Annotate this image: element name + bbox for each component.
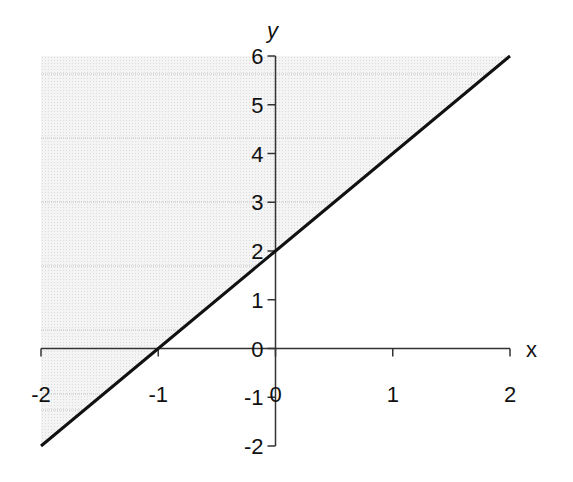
y-tick-label: 3 [251,190,263,215]
y-tick-label: 6 [251,44,263,69]
x-tick-label: 0 [269,382,281,407]
y-tick-label: 2 [251,239,263,264]
y-tick-label: 4 [251,142,263,167]
x-tick-label: 1 [387,382,399,407]
y-tick-label: 0 [251,337,263,362]
x-tick-label: -1 [148,382,168,407]
y-tick-label: 1 [251,288,263,313]
x-tick-label: -2 [31,382,51,407]
y-tick-label: -2 [244,434,264,459]
x-tick-label: 2 [504,382,516,407]
x-axis-title: x [526,337,537,362]
y-tick-label: -1 [244,385,264,410]
y-tick-label: 5 [251,93,263,118]
y-axis-title: y [265,18,280,43]
line-chart: -2-1012-2-10123456 x y [0,0,573,482]
